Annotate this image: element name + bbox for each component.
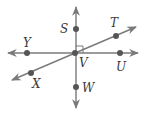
label-s: S bbox=[60, 22, 68, 36]
point-v bbox=[72, 50, 78, 56]
label-w: W bbox=[82, 81, 96, 95]
label-y: Y bbox=[23, 36, 32, 50]
point-y bbox=[24, 50, 30, 56]
point-x bbox=[28, 70, 34, 76]
geometry-diagram: S T Y V U X W bbox=[0, 0, 145, 116]
label-t: T bbox=[110, 16, 119, 30]
label-x: X bbox=[31, 77, 41, 91]
label-v: V bbox=[79, 56, 89, 70]
point-w bbox=[73, 84, 79, 90]
label-u: U bbox=[116, 60, 127, 74]
point-s bbox=[73, 26, 79, 32]
diagram-svg: S T Y V U X W bbox=[0, 0, 145, 116]
point-u bbox=[117, 50, 123, 56]
point-t bbox=[113, 33, 119, 39]
